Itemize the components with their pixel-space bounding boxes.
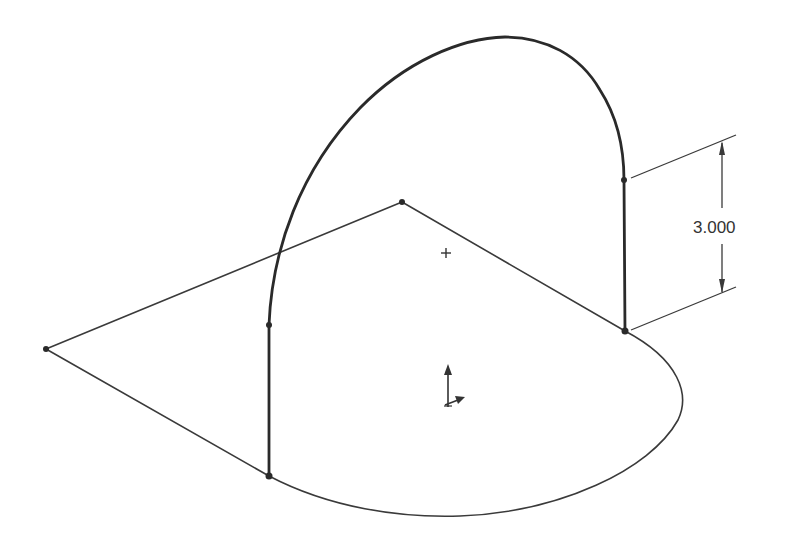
point-left-arc-start[interactable]	[266, 322, 272, 328]
edge-left-to-bottom[interactable]	[46, 349, 269, 476]
triad-icon	[444, 364, 465, 407]
arrow-up-icon	[719, 141, 725, 155]
edge-left-to-top[interactable]	[46, 202, 402, 349]
point-left-bottom[interactable]	[266, 473, 273, 480]
point-left-vertex[interactable]	[43, 346, 49, 352]
dimension-3000[interactable]: 3.000	[631, 135, 736, 330]
plus-icon	[441, 248, 451, 258]
point-top-vertex[interactable]	[399, 199, 405, 205]
point-right-base[interactable]	[622, 328, 629, 335]
extension-line-top	[631, 135, 736, 178]
dimension-value[interactable]: 3.000	[693, 218, 736, 237]
base-profile[interactable]	[46, 202, 625, 476]
sketch-canvas[interactable]: 3.000	[0, 0, 792, 540]
extension-line-bottom	[631, 287, 736, 330]
base-ellipse-arc[interactable]	[269, 331, 683, 516]
upper-arc[interactable]	[269, 37, 624, 325]
sketch-points	[43, 177, 629, 480]
vertical-edge-right[interactable]	[624, 180, 625, 331]
arrow-down-icon	[719, 279, 725, 293]
point-right-arc-end[interactable]	[621, 177, 627, 183]
edge-top-to-right[interactable]	[402, 202, 625, 331]
